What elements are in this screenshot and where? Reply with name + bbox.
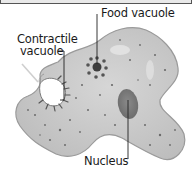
- amoeba-diagram: Food vacuole Contractile vacuole Nucleus: [0, 0, 192, 185]
- pipette-indicator: [22, 64, 38, 82]
- label-contractile-vacuole-line2: vacuole: [20, 45, 63, 57]
- label-nucleus: Nucleus: [84, 155, 128, 167]
- label-food-vacuole: Food vacuole: [101, 7, 175, 19]
